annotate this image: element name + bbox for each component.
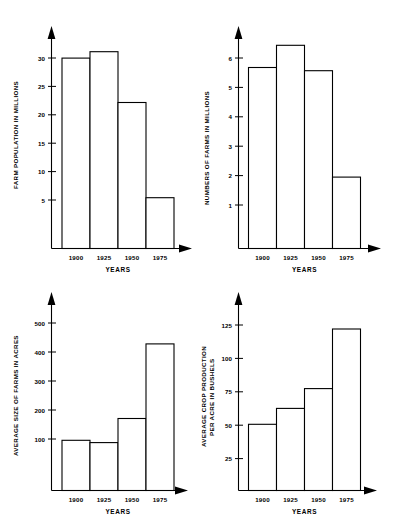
x-tick-label-1950: 1950	[118, 254, 146, 261]
y-axis-arrow-icon	[48, 292, 56, 305]
y-axis-arrow-icon	[235, 26, 243, 39]
y-axis-label-line1: AVERAGE CROP PRODUCTION	[200, 313, 208, 481]
y-tick-label-2: 2	[215, 172, 232, 179]
chart-panel-average-crop-production: AVERAGE CROP PRODUCTION PER ACRE IN BUSH…	[203, 265, 405, 530]
x-tick-label-1900: 1900	[62, 254, 90, 261]
x-tick-label-1950: 1950	[118, 496, 146, 503]
x-axis-label-farm-population: YEARS	[62, 266, 174, 273]
y-axis-arrow-icon	[235, 292, 243, 305]
x-tick-label-1975: 1975	[146, 496, 174, 503]
y-tick-label-5: 5	[215, 84, 232, 91]
bar-1900	[62, 58, 90, 248]
bar-1925	[90, 443, 118, 491]
x-tick-label-1975: 1975	[146, 254, 174, 261]
y-tick-label-6: 6	[215, 55, 232, 62]
chart-grid: FARM POPULATION IN MILLIONS 30 25 20 15 …	[0, 0, 405, 530]
x-tick-label-1900: 1900	[62, 496, 90, 503]
x-axis-arrow-icon	[175, 487, 188, 495]
x-axis-arrow-icon	[179, 245, 192, 253]
bar-1900	[249, 68, 277, 249]
chart-panel-farm-population: FARM POPULATION IN MILLIONS 30 25 20 15 …	[0, 0, 203, 265]
bar-1975	[146, 198, 174, 249]
average-farm-size-plot	[0, 265, 203, 530]
bar-1950	[305, 389, 333, 491]
y-tick-label-4: 4	[215, 113, 232, 120]
x-tick-label-1900: 1900	[249, 496, 277, 503]
x-tick-label-1925: 1925	[277, 496, 305, 503]
y-tick-label-400: 400	[21, 349, 45, 356]
x-tick-label-1925: 1925	[277, 254, 305, 261]
y-tick-label-30: 30	[24, 55, 45, 62]
bar-1950	[118, 419, 146, 491]
y-axis-label: AVERAGE SIZE OF FARMS IN ACRES	[12, 313, 20, 478]
y-tick-label-10: 10	[24, 168, 45, 175]
x-tick-label-1900: 1900	[249, 254, 277, 261]
y-tick-label-75: 75	[212, 388, 232, 395]
y-tick-label-5: 5	[24, 197, 45, 204]
bar-1950	[305, 71, 333, 249]
y-tick-label-100: 100	[21, 436, 45, 443]
y-tick-label-200: 200	[21, 407, 45, 414]
y-tick-label-20: 20	[24, 111, 45, 118]
x-tick-label-1925: 1925	[90, 496, 118, 503]
bar-series	[249, 45, 361, 248]
bar-series	[62, 52, 174, 249]
y-tick-label-300: 300	[21, 378, 45, 385]
bar-1975	[333, 329, 361, 491]
x-tick-label-1975: 1975	[333, 496, 361, 503]
chart-panel-number-of-farms: NUMBERS OF FARMS IN MILLIONS 6 5 4 3 2 1…	[203, 0, 405, 265]
bar-1900	[249, 424, 277, 490]
x-axis-label: YEARS	[249, 508, 361, 515]
bar-1925	[277, 45, 305, 248]
y-tick-label-1: 1	[215, 202, 232, 209]
bar-series	[249, 329, 361, 491]
y-axis-arrow-icon	[48, 26, 56, 39]
y-axis-label: NUMBERS OF FARMS IN MILLIONS	[203, 72, 211, 224]
chart-panel-average-farm-size: AVERAGE SIZE OF FARMS IN ACRES 500 400 3…	[0, 265, 203, 530]
y-tick-label-25: 25	[24, 83, 45, 90]
farm-population-plot	[0, 0, 203, 265]
number-of-farms-plot	[203, 0, 405, 265]
x-tick-label-1925: 1925	[90, 254, 118, 261]
bar-1975	[333, 177, 361, 248]
x-axis-label: YEARS	[62, 508, 174, 515]
x-axis-label-number-of-farms: YEARS	[249, 266, 361, 273]
y-tick-label-25: 25	[212, 455, 232, 462]
x-axis-arrow-icon	[368, 245, 381, 253]
y-axis-label: FARM POPULATION IN MILLIONS	[12, 60, 20, 210]
x-tick-label-1950: 1950	[305, 496, 333, 503]
bar-1925	[90, 52, 118, 249]
y-tick-label-50: 50	[212, 422, 232, 429]
y-tick-label-15: 15	[24, 140, 45, 147]
bar-series	[62, 344, 174, 491]
average-crop-production-plot	[203, 265, 405, 530]
y-tick-label-100: 100	[212, 355, 232, 362]
x-axis-arrow-icon	[364, 487, 377, 495]
bar-1950	[118, 103, 146, 249]
bar-1975	[146, 344, 174, 491]
y-tick-label-125: 125	[212, 322, 232, 329]
x-tick-label-1975: 1975	[333, 254, 361, 261]
bar-1925	[277, 408, 305, 490]
y-tick-label-500: 500	[21, 320, 45, 327]
y-tick-label-3: 3	[215, 143, 232, 150]
bar-1900	[62, 440, 90, 490]
x-tick-label-1950: 1950	[305, 254, 333, 261]
